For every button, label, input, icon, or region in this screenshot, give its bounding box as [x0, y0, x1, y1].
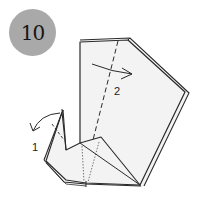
origami-diagram: 2 1	[0, 0, 200, 200]
fold-label-2: 2	[114, 85, 120, 97]
fold-label-1: 1	[32, 141, 38, 153]
